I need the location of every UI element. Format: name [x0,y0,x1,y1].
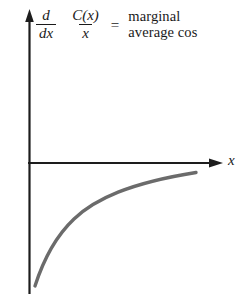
average-cost-denominator: x [79,24,92,41]
right-side-line-2: average cos [128,25,197,41]
derivative-operator-numerator: d [39,8,53,24]
equation-expression: d dx C(x) x = marginal average cos [36,8,197,42]
right-side-line-1: marginal [128,9,197,25]
x-axis-label: x [228,152,235,169]
marginal-average-cost-curve [35,173,196,287]
derivative-operator-denominator: dx [36,24,56,41]
x-axis-arrowhead [209,158,223,167]
graph-figure [0,0,246,295]
equation-right-side: marginal average cos [128,9,197,40]
average-cost-numerator: C(x) [69,8,102,24]
y-axis-arrowhead [25,9,34,22]
derivative-operator-fraction: d dx [36,8,56,42]
average-cost-fraction: C(x) x [69,8,102,42]
equals-sign: = [111,17,119,34]
